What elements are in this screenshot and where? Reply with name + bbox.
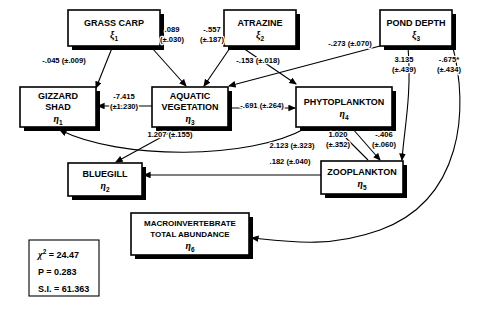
- path-diagram-figure: GRASS CARPξ1ATRAZINEξ2POND DEPTHξ3GIZZAR…: [0, 0, 487, 312]
- node-label-line: POND DEPTH: [386, 18, 445, 28]
- label-text: -.691 (±.264): [240, 101, 284, 110]
- node-label-line: MACROINVERTEBRATE: [144, 219, 237, 228]
- paths-layer: [60, 44, 460, 242]
- path-label-pond-depth-to-macroinvertebrate: -.675*-.675*(±.434)(±.434): [437, 55, 461, 74]
- label-text: -.273 (±.070): [328, 39, 372, 48]
- path-label-atrazine-to-aquatic-vegetation: -.557-.557(±.187)(±.187): [200, 25, 224, 44]
- path-label-atrazine-to-phytoplankton: -.153 (±.018)-.153 (±.018): [236, 56, 280, 65]
- label-text: .089: [165, 25, 180, 34]
- label-text: (±.060): [372, 140, 396, 149]
- label-text: (±.352): [326, 140, 350, 149]
- node-label-line: SHAD: [45, 102, 71, 112]
- node-atrazine: ATRAZINEξ2: [224, 10, 300, 50]
- stats-row-stability-index: S.I. = 61.363: [38, 284, 89, 294]
- label-text: 1.207 (±.155): [147, 130, 193, 139]
- label-text: -.557: [203, 25, 220, 34]
- node-pond-depth: POND DEPTHξ3: [380, 10, 456, 50]
- node-label-line: TOTAL ABUNDANCE: [150, 230, 230, 239]
- path-label-phytoplankton-to-zooplankton: -.406-.406(±.060)(±.060): [372, 130, 396, 149]
- path-arrow-grass-carp-to-gizzard-shad: [96, 48, 112, 88]
- stats-row-p-value: P = 0.283: [38, 267, 77, 277]
- node-gizzard-shad: GIZZARDSHADη1: [20, 87, 100, 131]
- node-label-line: GIZZARD: [38, 91, 78, 101]
- node-phytoplankton: PHYTOPLANKTONη4: [296, 87, 396, 131]
- path-arrow-atrazine-to-aquatic-vegetation: [204, 48, 230, 86]
- node-label-line: PHYTOPLANKTON: [304, 97, 385, 107]
- path-arrow-pond-depth-to-aquatic-vegetation: [229, 46, 380, 86]
- label-text: .182 (±.040): [270, 157, 311, 166]
- label-text: 2.123 (±.323): [269, 141, 315, 150]
- path-label-phytoplankton-to-gizzard-shad: 2.123 (±.323)2.123 (±.323): [269, 141, 315, 150]
- label-text: (±.030): [160, 35, 184, 44]
- label-text: -7.415: [113, 92, 135, 101]
- node-bluegill: BLUEGILLη2: [68, 163, 146, 200]
- node-zooplankton: ZOOPLANKTONη5: [321, 161, 407, 198]
- node-grass-carp: GRASS CARPξ1: [68, 10, 164, 50]
- node-label-line: ATRAZINE: [238, 18, 283, 28]
- node-label-line: AQUATIC: [170, 91, 211, 101]
- node-label-line: ZOOPLANKTON: [327, 167, 396, 177]
- diagram-canvas: GRASS CARPξ1ATRAZINEξ2POND DEPTHξ3GIZZAR…: [0, 0, 487, 312]
- path-label-grass-carp-to-gizzard-shad: -.045 (±.009)-.045 (±.009): [42, 56, 86, 65]
- path-label-aquatic-vegetation-to-bluegill: 1.207 (±.155)1.207 (±.155): [147, 130, 193, 139]
- path-label-pond-depth-to-zooplankton: 3.1353.135(±.439)(±.439): [392, 55, 416, 74]
- path-label-aquatic-vegetation-to-gizzard-shad: -7.415-7.415(±1.230)(±1.230): [110, 92, 139, 111]
- path-label-grass-carp-to-aquatic-vegetation: .089.089(±.030)(±.030): [160, 25, 184, 44]
- label-text: 3.135: [394, 55, 414, 64]
- label-text: 1.020: [328, 130, 347, 139]
- label-text: -.675*: [439, 55, 459, 64]
- node-macroinvertebrate: MACROINVERTEBRATETOTAL ABUNDANCEη6: [131, 213, 253, 259]
- node-label-line: GRASS CARP: [84, 18, 144, 28]
- stats-row-chi-square: χ2 = 24.47: [36, 248, 79, 260]
- node-label-line: VEGETATION: [161, 102, 218, 112]
- node-aquatic-vegetation: AQUATICVEGETATIONη3: [152, 87, 232, 131]
- label-text: -.153 (±.018): [236, 56, 280, 65]
- path-label-pond-depth-to-aquatic-vegetation: -.273 (±.070)-.273 (±.070): [328, 39, 372, 48]
- node-label-line: BLUEGILL: [83, 169, 128, 179]
- path-label-zooplankton-to-bluegill: .182 (±.040).182 (±.040): [270, 157, 311, 166]
- path-arrow-grass-carp-to-aquatic-vegetation: [152, 48, 186, 86]
- stats-box: χ2 = 24.47P = 0.283S.I. = 61.363: [29, 240, 99, 296]
- label-text: (±1.230): [110, 102, 139, 111]
- path-arrow-atrazine-to-phytoplankton: [243, 48, 296, 84]
- path-label-zooplankton-to-phytoplankton: 1.0201.020(±.352)(±.352): [326, 130, 350, 149]
- label-text: (±.187): [200, 35, 224, 44]
- label-text: -.045 (±.009): [42, 56, 86, 65]
- label-text: (±.434): [437, 65, 461, 74]
- label-text: (±.439): [392, 65, 416, 74]
- path-label-aquatic-vegetation-to-phytoplankton: -.691 (±.264)-.691 (±.264): [240, 101, 284, 110]
- label-text: -.406: [375, 130, 392, 139]
